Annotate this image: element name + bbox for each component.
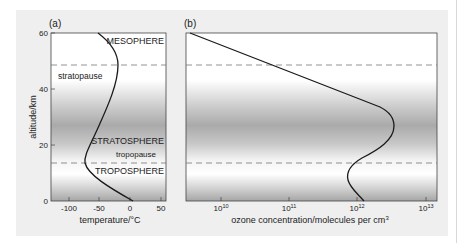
y-tick-60: 60 bbox=[39, 29, 48, 38]
stratosphere-label: STRATOSPHERE bbox=[91, 136, 164, 146]
figure: (a) 60 40 20 0 altitude/km -100 -50 0 50… bbox=[0, 0, 469, 243]
panel-a-label: (a) bbox=[49, 18, 61, 29]
troposphere-label: TROPOSPHERE bbox=[95, 166, 164, 176]
stratopause-label: stratopause bbox=[58, 71, 103, 81]
y-tick-0: 0 bbox=[44, 197, 49, 206]
x-tick-minus50: -50 bbox=[93, 204, 105, 213]
x-tick-minus100: -100 bbox=[61, 204, 78, 213]
x-axis-label-a: temperature/°C bbox=[79, 215, 141, 225]
panel-b-label: (b) bbox=[184, 18, 196, 29]
plot-area-b bbox=[186, 33, 437, 201]
panel-b: (b) 1010 1011 1012 1013 ozone concentrat… bbox=[184, 18, 437, 225]
tropopause-label: tropopause bbox=[116, 150, 157, 159]
page-edge-divider bbox=[456, 0, 457, 243]
x-axis-label-b: ozone concentration/molecules per cm3 bbox=[231, 215, 389, 225]
y-tick-20: 20 bbox=[39, 141, 48, 150]
y-tick-40: 40 bbox=[39, 85, 48, 94]
x-tick-0: 0 bbox=[128, 204, 133, 213]
y-axis-label: altitude/km bbox=[28, 95, 38, 139]
mesosphere-label: MESOPHERE bbox=[106, 36, 164, 46]
x-tick-50: 50 bbox=[157, 204, 166, 213]
